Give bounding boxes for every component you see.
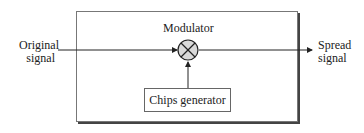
connections <box>0 0 364 133</box>
chips-generator-box: Chips generator <box>144 88 231 112</box>
chips-generator-label: Chips generator <box>149 93 225 108</box>
multiplier-icon <box>178 40 198 60</box>
